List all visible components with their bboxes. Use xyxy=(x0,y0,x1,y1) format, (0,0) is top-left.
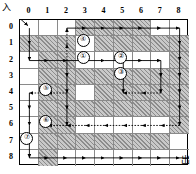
maze-figure: 入 012345678 012345678 ①②③④⑤⑥⑦ 出 xyxy=(0,0,196,174)
row-label-1: 1 xyxy=(6,38,16,48)
maze-cell-open xyxy=(20,52,39,68)
column-label-7: 7 xyxy=(155,6,165,16)
row-label-3: 3 xyxy=(6,71,16,81)
maze-cell-wall xyxy=(170,117,189,133)
maze-cell-wall xyxy=(95,20,114,36)
column-label-3: 3 xyxy=(80,6,90,16)
maze-cell-open xyxy=(76,85,95,101)
column-label-5: 5 xyxy=(117,6,127,16)
maze-cell-open xyxy=(20,85,39,101)
maze-cell-wall xyxy=(58,85,77,101)
maze-cell-wall xyxy=(58,101,77,117)
step-badge: ② xyxy=(114,51,127,64)
maze-cell-wall xyxy=(39,69,58,85)
maze-cell-open xyxy=(133,117,152,133)
maze-cell-wall xyxy=(39,134,58,150)
maze-cell-wall xyxy=(151,101,170,117)
maze-cell-wall xyxy=(58,117,77,133)
row-label-7: 7 xyxy=(6,136,16,146)
maze-cell-wall xyxy=(114,85,133,101)
maze-cell-open xyxy=(58,150,77,166)
maze-cell-wall xyxy=(170,101,189,117)
entrance-label: 入 xyxy=(2,2,11,12)
maze-cell-open xyxy=(151,52,170,68)
column-label-0: 0 xyxy=(23,6,33,16)
maze-cell-open xyxy=(58,20,77,36)
maze-cell-wall xyxy=(151,134,170,150)
maze-cell-open xyxy=(20,117,39,133)
maze-cell-wall xyxy=(170,69,189,85)
row-label-6: 6 xyxy=(6,119,16,129)
maze-cell-open xyxy=(151,117,170,133)
maze-cell-wall xyxy=(114,20,133,36)
maze-cell-wall xyxy=(114,134,133,150)
maze-grid: ①②③④⑤⑥⑦ xyxy=(19,19,188,165)
maze-cell-open xyxy=(76,150,95,166)
exit-label: 出 xyxy=(181,155,190,165)
row-label-0: 0 xyxy=(6,22,16,32)
maze-cell-open xyxy=(114,150,133,166)
maze-cell-wall xyxy=(76,134,95,150)
row-label-2: 2 xyxy=(6,55,16,65)
maze-cell-open xyxy=(95,52,114,68)
column-label-2: 2 xyxy=(61,6,71,16)
maze-cell-open xyxy=(20,20,39,36)
step-badge: ④ xyxy=(77,34,90,47)
maze-cell-wall xyxy=(58,134,77,150)
maze-cell-wall xyxy=(114,101,133,117)
maze-cell-open xyxy=(170,20,189,36)
maze-cell-open xyxy=(39,20,58,36)
maze-cell-open xyxy=(95,117,114,133)
maze-cell-wall xyxy=(58,36,77,52)
maze-cell-wall xyxy=(114,36,133,52)
maze-cell-wall xyxy=(95,36,114,52)
maze-cell-open xyxy=(170,134,189,150)
maze-cell-wall xyxy=(133,36,152,52)
maze-cell-wall xyxy=(133,134,152,150)
maze-cell-wall xyxy=(151,85,170,101)
row-label-8: 8 xyxy=(6,152,16,162)
maze-cell-open xyxy=(95,150,114,166)
row-label-5: 5 xyxy=(6,103,16,113)
maze-cell-wall xyxy=(76,69,95,85)
maze-cell-wall xyxy=(133,20,152,36)
maze-cell-wall xyxy=(95,85,114,101)
maze-cell-wall xyxy=(95,134,114,150)
maze-cell-open xyxy=(76,117,95,133)
maze-cell-wall xyxy=(151,69,170,85)
maze-cell-wall xyxy=(133,85,152,101)
maze-cell-wall xyxy=(58,52,77,68)
column-label-8: 8 xyxy=(174,6,184,16)
maze-cell-open xyxy=(20,69,39,85)
column-label-1: 1 xyxy=(42,6,52,16)
maze-cell-wall xyxy=(58,69,77,85)
maze-cell-wall xyxy=(133,69,152,85)
maze-cell-open xyxy=(20,101,39,117)
column-label-6: 6 xyxy=(136,6,146,16)
column-label-4: 4 xyxy=(99,6,109,16)
maze-cell-wall xyxy=(170,85,189,101)
maze-cell-wall xyxy=(170,52,189,68)
step-badge: ① xyxy=(77,51,90,64)
step-badge: ③ xyxy=(114,67,127,80)
maze-cell-wall xyxy=(95,101,114,117)
maze-cell-wall xyxy=(133,101,152,117)
maze-cell-wall xyxy=(39,36,58,52)
maze-cell-wall xyxy=(39,52,58,68)
maze-cell-wall xyxy=(20,36,39,52)
maze-cell-wall xyxy=(95,69,114,85)
maze-cell-open xyxy=(151,20,170,36)
maze-cell-wall xyxy=(151,36,170,52)
maze-cell-open xyxy=(114,117,133,133)
maze-cell-open xyxy=(151,150,170,166)
maze-cell-wall xyxy=(170,36,189,52)
step-badge: ⑦ xyxy=(20,132,33,145)
row-label-4: 4 xyxy=(6,87,16,97)
maze-cell-open xyxy=(20,150,39,166)
maze-cell-open xyxy=(133,52,152,68)
maze-cell-wall xyxy=(76,101,95,117)
maze-cell-wall xyxy=(39,150,58,166)
maze-cell-open xyxy=(133,150,152,166)
